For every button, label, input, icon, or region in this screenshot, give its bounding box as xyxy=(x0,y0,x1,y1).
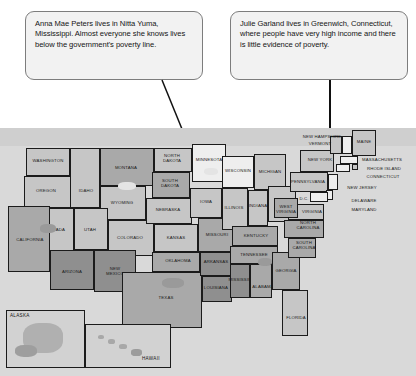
map-texture xyxy=(204,168,218,175)
state-maryland xyxy=(310,192,328,202)
state-maine xyxy=(352,130,376,156)
state-pennsylvania xyxy=(290,172,328,192)
state-iowa xyxy=(190,188,222,218)
state-arkansas xyxy=(200,252,232,276)
state-michigan xyxy=(254,154,286,190)
inset-label-hawaii: HAWAII xyxy=(142,356,160,361)
inset-hawaii: HAWAII xyxy=(85,324,171,368)
hawaii-island xyxy=(131,349,142,356)
state-north-dakota xyxy=(154,148,192,172)
state-arizona xyxy=(50,250,94,290)
state-oregon xyxy=(24,176,72,208)
map-texture xyxy=(40,224,56,233)
state-new-jersey xyxy=(328,174,338,190)
inset-label-alaska: ALASKA xyxy=(10,313,30,318)
state-minnesota xyxy=(192,144,226,182)
state-south-carolina xyxy=(288,238,316,258)
state-massachusetts xyxy=(340,156,358,164)
state-label-vermont: VERMONT xyxy=(309,142,332,147)
state-west-virginia xyxy=(274,198,298,218)
state-north-carolina xyxy=(284,220,324,238)
state-mississippi xyxy=(230,264,250,298)
state-south-dakota xyxy=(152,172,190,198)
callout-left-text: Anna Mae Peters lives in Nitta Yuma, Mis… xyxy=(35,19,185,49)
us-choropleth-map: WASHINGTON OREGON IDAHO MONTANA WYOMING … xyxy=(0,128,416,376)
state-california xyxy=(8,206,50,272)
callout-right-text: Julie Garland lives in Greenwich, Connec… xyxy=(240,19,396,49)
state-washington xyxy=(26,148,70,176)
state-new-york xyxy=(300,150,334,172)
state-label-new-jersey: NEW JERSEY xyxy=(347,186,376,191)
state-label-connecticut: CONNECTICUT xyxy=(367,175,400,180)
map-texture xyxy=(162,278,184,288)
state-idaho xyxy=(70,148,100,208)
state-wisconsin xyxy=(222,156,254,188)
hawaii-island xyxy=(98,335,104,339)
state-montana xyxy=(100,148,154,186)
state-alabama xyxy=(250,264,272,298)
state-label-maryland: MARYLAND xyxy=(352,208,377,213)
inset-alaska: ALASKA xyxy=(6,310,85,368)
hawaii-island xyxy=(108,339,115,344)
state-kansas xyxy=(154,224,198,252)
state-label-delaware: DELAWARE xyxy=(352,199,377,204)
map-texture xyxy=(258,258,272,266)
state-label-dc: D.C. xyxy=(299,197,308,202)
hawaii-island xyxy=(119,344,127,349)
callout-bubble-left: Anna Mae Peters lives in Nitta Yuma, Mis… xyxy=(25,11,203,80)
poverty-map-figure: Anna Mae Peters lives in Nitta Yuma, Mis… xyxy=(0,0,416,376)
state-louisiana xyxy=(202,276,232,302)
state-nebraska xyxy=(146,198,192,224)
state-utah xyxy=(74,208,108,250)
state-connecticut xyxy=(336,164,350,172)
state-florida xyxy=(282,290,308,336)
map-texture xyxy=(118,182,136,190)
callout-bubble-right: Julie Garland lives in Greenwich, Connec… xyxy=(230,11,408,80)
state-oklahoma xyxy=(152,252,200,272)
state-label-rhode-island: RHODE ISLAND xyxy=(367,167,401,172)
state-rhode-island xyxy=(352,164,358,170)
state-new-hampshire xyxy=(342,136,352,154)
state-label-massachusetts: MASSACHUSETTS xyxy=(362,158,402,163)
alaska-shape xyxy=(15,345,37,357)
state-kentucky xyxy=(232,226,278,246)
state-indiana xyxy=(248,190,268,226)
state-illinois xyxy=(222,188,248,230)
state-vermont xyxy=(330,136,342,154)
